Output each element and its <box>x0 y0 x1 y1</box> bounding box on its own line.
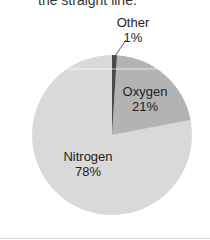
label-nitrogen-pct: 78% <box>75 164 101 179</box>
pie-chart: Other 1% Oxygen 21% Nitrogen 78% <box>0 0 210 240</box>
divider <box>0 238 210 239</box>
label-other-pct: 1% <box>124 30 143 45</box>
label-nitrogen-name: Nitrogen <box>63 149 112 164</box>
label-other-name: Other <box>117 15 150 30</box>
label-oxygen-name: Oxygen <box>123 84 168 99</box>
label-oxygen-pct: 21% <box>132 99 158 114</box>
